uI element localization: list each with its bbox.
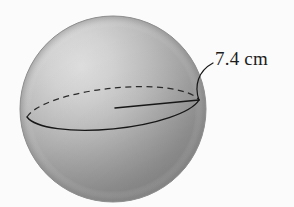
sphere-figure: 7.4 cm [0, 0, 294, 207]
sphere-diagram-canvas [0, 0, 294, 207]
radius-measurement-label: 7.4 cm [215, 48, 268, 70]
sphere-rim-shading [20, 16, 206, 202]
